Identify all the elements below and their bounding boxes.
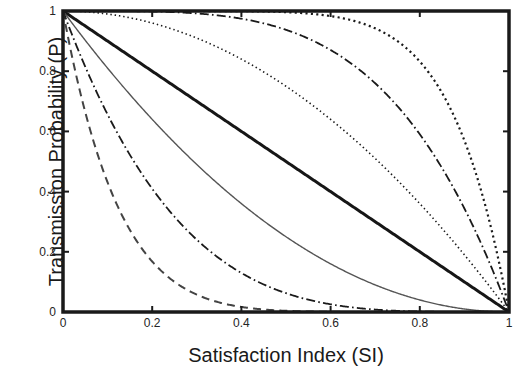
x-tick-label: 0.2	[144, 316, 161, 330]
x-tick-label: 0.8	[411, 316, 428, 330]
chart-figure: Transmission Probability (P) Satisfactio…	[0, 0, 529, 378]
x-tick-label: 0.6	[322, 316, 339, 330]
y-tick-label: 0.8	[26, 64, 56, 78]
x-tick-label: 0	[60, 316, 67, 330]
x-tick-label: 0.4	[233, 316, 250, 330]
y-tick-label: 0	[26, 305, 56, 319]
y-tick-label: 0.2	[26, 245, 56, 259]
y-tick-label: 0.6	[26, 124, 56, 138]
data-curve	[63, 11, 509, 312]
data-curves	[63, 11, 509, 312]
y-tick-label: 0.4	[26, 185, 56, 199]
y-tick-label: 1	[26, 4, 56, 18]
x-tick-label: 1	[506, 316, 513, 330]
plot-canvas	[0, 0, 529, 378]
x-axis-label: Satisfaction Index (SI)	[62, 344, 510, 367]
y-axis-label: Transmission Probability (P)	[45, 12, 68, 312]
